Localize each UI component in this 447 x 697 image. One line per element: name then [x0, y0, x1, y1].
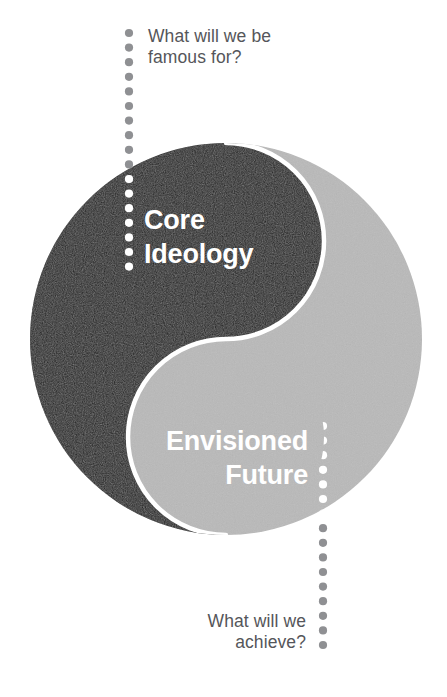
dotted-leader-bottom-outside [319, 524, 327, 649]
yin-yang-diagram [0, 0, 447, 697]
label-envisioned-future: Envisioned Future [122, 424, 308, 492]
callout-top-question: What will we be famous for? [148, 26, 338, 68]
dotted-leader-top-outside [125, 29, 133, 183]
label-core-ideology: Core Ideology [144, 203, 334, 271]
callout-bottom-question: What will we achieve? [124, 611, 306, 653]
